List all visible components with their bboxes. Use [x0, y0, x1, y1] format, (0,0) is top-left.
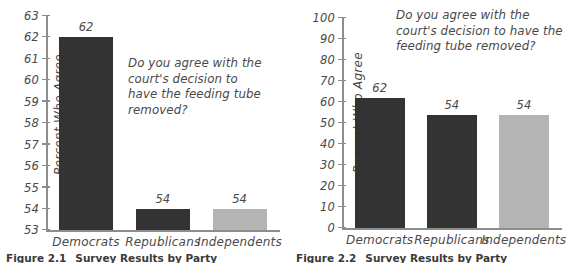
bar-value-label: 54: [444, 98, 459, 112]
x-axis-category-label: Independents: [197, 235, 282, 249]
y-axis-tick-label: 56: [24, 159, 39, 173]
bar[interactable]: 54: [427, 115, 477, 229]
y-axis-tick-label: 57: [24, 138, 39, 152]
y-axis-tick-label: 0: [327, 221, 335, 235]
x-axis-line: [46, 230, 280, 232]
bar-value-label: 62: [79, 20, 94, 34]
figure-pair-page: Percent Who Agree 5354555657585960616263…: [0, 0, 574, 263]
bar[interactable]: 54: [213, 209, 267, 230]
bar-chart-truncated-axis: Percent Who Agree 5354555657585960616263…: [46, 16, 278, 232]
y-axis-tick-label: 50: [320, 116, 335, 130]
bar-value-label: 62: [372, 81, 387, 95]
y-axis-tick-label: 20: [320, 179, 335, 193]
figure-caption-title: Survey Results by Party: [75, 252, 217, 263]
y-axis-tick-label: 40: [320, 137, 335, 151]
y-axis-tick-label: 54: [24, 202, 39, 216]
y-axis-tick-label: 60: [320, 95, 335, 109]
bar-slot: 54Republicans: [124, 16, 201, 230]
bar[interactable]: 62: [355, 98, 405, 228]
figure-left: Percent Who Agree 5354555657585960616263…: [0, 0, 290, 263]
figure-caption: Figure 2.1Survey Results by Party: [6, 252, 217, 263]
y-axis-tick-label: 30: [320, 158, 335, 172]
x-axis-category-label: Democrats: [346, 233, 413, 247]
y-axis-tick-label: 10: [320, 200, 335, 214]
figure-right: Percent Who Agree 0102030405060708090100…: [290, 0, 574, 263]
y-axis-tick-label: 90: [320, 32, 335, 46]
figure-caption-number: Figure 2.2: [296, 252, 356, 263]
x-axis-category-label: Independents: [482, 233, 567, 247]
bar-slot: 62Democrats: [48, 16, 125, 230]
y-axis-tick-label: 59: [24, 95, 39, 109]
x-axis-line: [342, 228, 562, 230]
y-axis-tick-label: 70: [320, 74, 335, 88]
figure-caption-title: Survey Results by Party: [365, 252, 507, 263]
x-axis-category-label: Republicans: [414, 233, 489, 247]
y-axis-tick-label: 60: [24, 73, 39, 87]
y-axis-tick-label: 80: [320, 53, 335, 67]
bar-value-label: 54: [232, 192, 247, 206]
bar[interactable]: 54: [136, 209, 190, 230]
bar[interactable]: 54: [499, 115, 549, 229]
y-axis-tick-label: 100: [312, 11, 335, 25]
y-axis-tick-label: 63: [24, 9, 39, 23]
bar[interactable]: 62: [59, 37, 113, 230]
figure-caption: Figure 2.2Survey Results by Party: [296, 252, 507, 263]
bar-value-label: 54: [155, 192, 170, 206]
y-axis-tick-label: 62: [24, 30, 39, 44]
bar-group: 62Democrats54Republicans54Independents: [48, 16, 278, 230]
bar-value-label: 54: [517, 98, 532, 112]
chart-annotation: Do you agree with the court's decision t…: [128, 56, 268, 118]
x-axis-category-label: Democrats: [52, 235, 119, 249]
chart-annotation: Do you agree with the court's decision t…: [396, 8, 564, 55]
y-axis-tick-label: 53: [24, 223, 39, 237]
y-axis-tick-label: 61: [24, 52, 39, 66]
y-axis-tick-label: 58: [24, 116, 39, 130]
x-axis-category-label: Republicans: [125, 235, 200, 249]
figure-caption-number: Figure 2.1: [6, 252, 66, 263]
y-axis-tick-label: 55: [24, 181, 39, 195]
bar-slot: 54Independents: [201, 16, 278, 230]
